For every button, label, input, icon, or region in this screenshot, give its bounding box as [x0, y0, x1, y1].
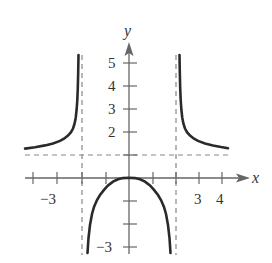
- y-axis-label: y: [122, 22, 132, 40]
- x-tick-label-neg3: −3: [40, 191, 56, 207]
- function-graph: y x −3 3 4 5 4 3 2 −3: [0, 0, 272, 263]
- left-branch: [25, 55, 79, 149]
- y-tick-label-3: 3: [108, 101, 116, 117]
- right-branch: [180, 55, 229, 148]
- x-axis-label: x: [251, 169, 259, 186]
- y-tick-label-5: 5: [108, 55, 116, 71]
- y-tick-label-2: 2: [108, 124, 116, 140]
- y-tick-label-4: 4: [108, 78, 116, 94]
- y-tick-label-neg3: −3: [96, 239, 112, 255]
- x-tick-label-3: 3: [194, 191, 202, 207]
- y-ticks: [123, 63, 137, 247]
- x-tick-label-4: 4: [216, 191, 224, 207]
- curves: [25, 55, 228, 253]
